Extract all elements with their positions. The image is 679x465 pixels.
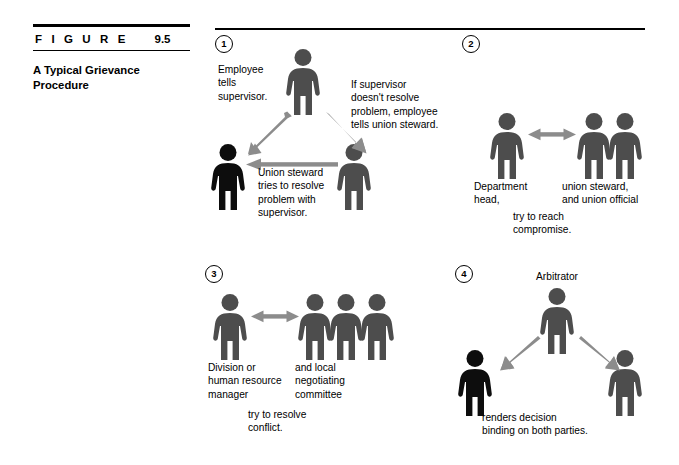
arrow-arbitrator-to-right-party <box>579 334 631 376</box>
renders-decision-note: renders decision binding on both parties… <box>482 411 588 438</box>
panel-step-4: 4 Arbitrator <box>0 0 679 465</box>
person-arbitrator <box>537 288 577 356</box>
step-badge-4: 4 <box>455 265 473 283</box>
arbitrator-label: Arbitrator <box>512 270 602 283</box>
arrow-arbitrator-to-left-party <box>489 334 541 376</box>
figure-page: F I G U R E 9.5 A Typical Grievance Proc… <box>0 0 679 465</box>
